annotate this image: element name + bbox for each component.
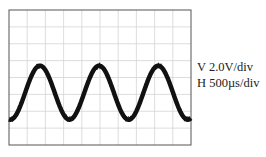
horizontal-scale-label: H 500µs/div [197, 76, 259, 91]
grid [9, 10, 191, 145]
vertical-scale-label: V 2.0V/div [197, 60, 253, 75]
